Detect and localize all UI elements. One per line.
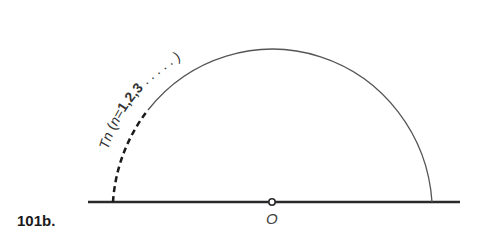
solid-arc-segment [148, 49, 432, 202]
figure-number-label: 101b. [17, 212, 55, 229]
arc-label: Tn (n=1,2,3 . . . . . ) [96, 48, 183, 151]
semicircle-diagram: O 101b. Tn (n=1,2,3 . . . . . ) [0, 0, 482, 243]
origin-marker [269, 199, 275, 205]
arc-label-dots: . . . . . [134, 50, 178, 90]
origin-label: O [266, 210, 278, 227]
